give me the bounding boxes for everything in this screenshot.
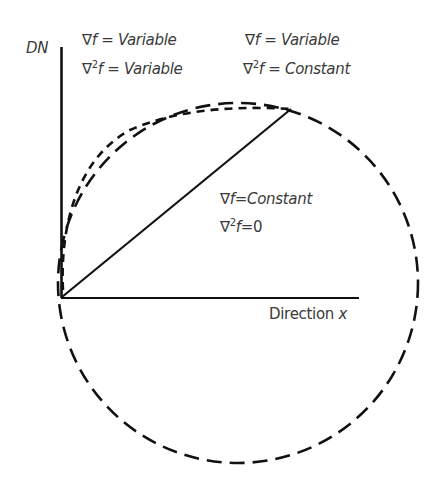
nabla-symbol: ∇ [220, 190, 230, 208]
equals: = [97, 31, 118, 49]
nabla-symbol: ∇ [243, 60, 253, 78]
equals: = [260, 31, 281, 49]
annotation-value: Variable [124, 60, 183, 78]
nabla-symbol: ∇ [220, 218, 230, 236]
nabla-symbol: ∇ [82, 31, 92, 49]
gradient-diagram [0, 0, 447, 484]
annotation-variable-constant-line1: ∇f = Variable [245, 31, 339, 49]
equals: = [264, 60, 285, 78]
nabla-symbol: ∇ [245, 31, 255, 49]
equals: = [235, 190, 247, 208]
annotation-variable-variable-line2: ∇2f = Variable [82, 60, 183, 78]
y-axis-label: DN [26, 39, 48, 57]
annotation-variable-constant-line2: ∇2f = Constant [243, 60, 350, 78]
annotation-value: Variable [118, 31, 177, 49]
annotation-constant-zero-line2: ∇2f=0 [220, 218, 262, 236]
annotation-value: Constant [247, 190, 312, 208]
y-axis-label-text: DN [26, 39, 48, 57]
annotation-value: Constant [285, 60, 350, 78]
annotation-constant-zero-line1: ∇f=Constant [220, 190, 312, 208]
annotation-value: Variable [281, 31, 340, 49]
circle-arc-curve [58, 103, 418, 463]
x-axis-label: Direction x [269, 305, 347, 323]
equals: = [241, 218, 253, 236]
annotation-value: 0 [253, 218, 262, 236]
nabla-symbol: ∇ [82, 60, 92, 78]
annotation-variable-variable-line1: ∇f = Variable [82, 31, 176, 49]
x-axis-label-text: Direction [269, 305, 339, 323]
x-axis-variable: x [339, 305, 348, 323]
equals: = [103, 60, 124, 78]
